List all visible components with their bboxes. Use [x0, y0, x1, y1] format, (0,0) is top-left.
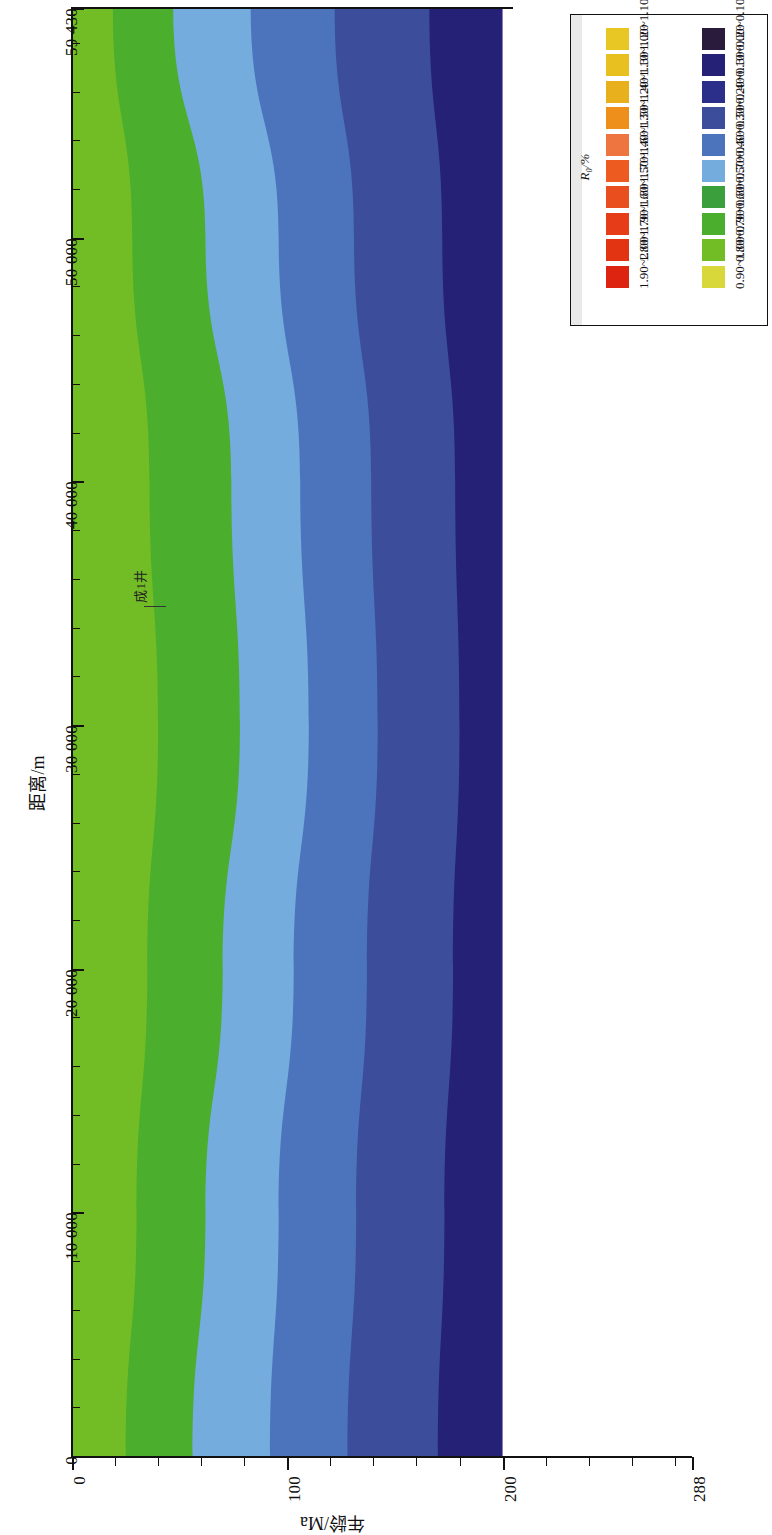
tick-distance-minor	[71, 286, 80, 287]
tick-distance-minor	[71, 1359, 80, 1360]
tick-age-minor	[632, 1457, 633, 1466]
tick-age-minor	[373, 1457, 374, 1466]
plot-area	[72, 8, 512, 1456]
axis-title-distance: 距离/m	[23, 755, 49, 810]
tick-distance-minor	[71, 920, 80, 921]
legend-entry-label: 0.90~1.00	[728, 265, 752, 289]
tick-distance-minor	[71, 774, 80, 775]
legend-entry: 0.90~1.00	[701, 265, 772, 291]
tick-label-distance: 40 000	[62, 481, 82, 529]
tick-label-distance: 10 000	[62, 1212, 82, 1260]
tick-distance-minor	[71, 189, 80, 190]
legend-swatch	[701, 80, 726, 104]
legend-entry-label: 1.90~2.00	[632, 265, 656, 289]
tick-distance-minor	[71, 140, 80, 141]
tick-age-minor	[546, 1457, 547, 1466]
tick-distance-minor	[71, 1066, 80, 1067]
tick-distance-minor	[71, 1310, 80, 1311]
legend-swatch	[605, 185, 630, 209]
legend-swatch	[701, 106, 726, 130]
legend-swatch	[605, 53, 630, 77]
legend-swatch	[701, 133, 726, 157]
legend-swatch	[701, 27, 726, 51]
tick-distance-minor	[71, 1164, 80, 1165]
legend-swatch	[605, 106, 630, 130]
axis-line-bottom	[71, 1456, 692, 1458]
tick-label-distance: 30 000	[62, 725, 82, 773]
tick-age-minor	[416, 1457, 417, 1466]
well-marker-tick	[144, 606, 166, 607]
well-marker-label: 成1井	[130, 570, 149, 603]
tick-age-major	[692, 1457, 694, 1470]
axis-title-age: 年龄/Ma	[300, 1512, 365, 1535]
tick-distance-minor	[71, 579, 80, 580]
contour-bands	[72, 8, 512, 1456]
tick-distance-minor	[71, 871, 80, 872]
tick-label-age: 0	[70, 1476, 90, 1485]
legend-swatch	[605, 133, 630, 157]
legend-swatch	[701, 185, 726, 209]
tick-age-major	[287, 1457, 289, 1470]
legend-swatch	[701, 53, 726, 77]
tick-label-distance: 59 430	[62, 8, 82, 56]
tick-distance-minor	[71, 1261, 80, 1262]
tick-distance-minor	[71, 530, 80, 531]
tick-distance-minor	[71, 92, 80, 93]
legend-swatch	[605, 80, 630, 104]
tick-age-minor	[460, 1457, 461, 1466]
tick-label-age: 200	[501, 1476, 521, 1502]
tick-age-major	[503, 1457, 505, 1470]
tick-age-major	[72, 1457, 74, 1470]
tick-distance-minor	[71, 1115, 80, 1116]
legend-box: R₀/% 1.00~1.101.10~1.201.20~1.301.30~1.4…	[570, 14, 768, 326]
tick-age-minor	[589, 1457, 590, 1466]
legend-swatch	[701, 238, 726, 262]
tick-distance-minor	[71, 676, 80, 677]
legend-swatch	[605, 212, 630, 236]
legend-swatch	[605, 238, 630, 262]
legend-entry: 1.90~2.00	[605, 265, 693, 291]
tick-distance-minor	[71, 384, 80, 385]
legend-swatch	[701, 212, 726, 236]
legend-swatch	[605, 27, 630, 51]
legend-inner: R₀/% 1.00~1.101.10~1.201.20~1.301.30~1.4…	[571, 15, 767, 325]
tick-distance-minor	[71, 1017, 80, 1018]
tick-distance-minor	[71, 823, 80, 824]
well-marker: 成1井	[130, 570, 170, 650]
tick-label-distance: 20 000	[62, 969, 82, 1017]
legend-swatch	[701, 159, 726, 183]
legend-swatch	[701, 265, 726, 289]
tick-age-minor	[158, 1457, 159, 1466]
legend-title: R₀/%	[577, 154, 593, 181]
legend-swatch	[605, 159, 630, 183]
tick-distance-minor	[71, 628, 80, 629]
tick-age-minor	[244, 1457, 245, 1466]
tick-distance-minor	[71, 433, 80, 434]
tick-label-age: 100	[285, 1476, 305, 1502]
tick-label-distance: 50 000	[62, 238, 82, 286]
tick-age-minor	[201, 1457, 202, 1466]
tick-age-minor	[330, 1457, 331, 1466]
tick-age-minor	[115, 1457, 116, 1466]
tick-label-age: 288	[690, 1476, 710, 1502]
tick-distance-minor	[71, 335, 80, 336]
tick-distance-minor	[71, 1407, 80, 1408]
tick-age-minor	[675, 1457, 676, 1466]
plot-frame: 010 00020 00030 00040 00050 00059 430 01…	[72, 8, 692, 1456]
legend-swatch	[605, 265, 630, 289]
axis-line-top	[71, 7, 513, 9]
